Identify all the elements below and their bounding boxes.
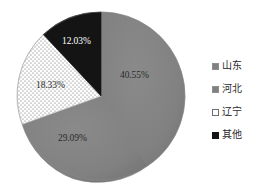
legend-swatch-qita [212,132,219,139]
legend-item-liaoning[interactable]: 辽宁 [212,106,270,118]
legend-item-shandong[interactable]: 山东 [212,60,270,72]
legend-label-hebei: 河北 [222,84,242,94]
pie-label-liaoning: 18.33% [36,81,65,91]
pie-chart: 40.55% 29.09% 18.33% 12.03% 山东 河北 辽宁 其他 [0,0,273,189]
legend-label-qita: 其他 [222,130,242,140]
pie-svg [0,0,196,189]
pie-label-hebei: 29.09% [58,134,87,144]
legend-swatch-shandong [212,63,219,70]
pie-plot-area: 40.55% 29.09% 18.33% 12.03% [0,0,196,189]
legend-item-hebei[interactable]: 河北 [212,83,270,95]
legend-item-qita[interactable]: 其他 [212,129,270,141]
legend-label-shandong: 山东 [222,61,242,71]
legend-label-liaoning: 辽宁 [222,107,242,117]
chart-legend: 山东 河北 辽宁 其他 [212,60,270,141]
pie-label-qita: 12.03% [62,37,91,47]
legend-swatch-hebei [212,86,219,93]
pie-label-shandong: 40.55% [120,71,149,81]
legend-swatch-liaoning [212,109,219,116]
